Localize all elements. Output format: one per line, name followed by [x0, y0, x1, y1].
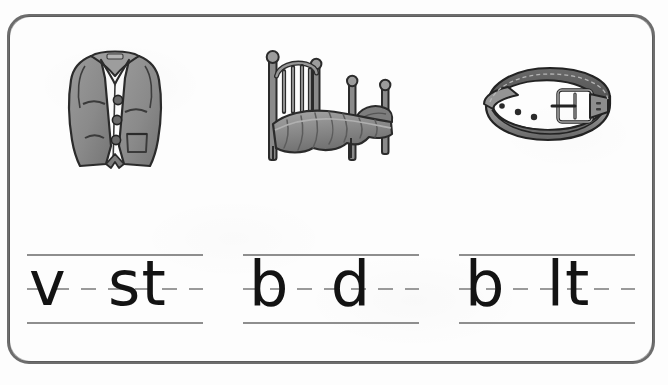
- answer-cell-1[interactable]: v st: [7, 238, 223, 338]
- answer-letters-1: v st: [27, 238, 203, 314]
- writing-lines-row: v st b d b lt: [7, 238, 655, 338]
- handwriting-lines-3: b lt: [459, 238, 635, 314]
- bed-illustration: [251, 42, 411, 170]
- answer-letters-text-1: v st: [27, 236, 205, 332]
- picture-cell-3: [439, 26, 655, 186]
- picture-row: [7, 26, 655, 186]
- answer-letters-text-2: b d: [243, 236, 425, 332]
- answer-cell-2[interactable]: b d: [223, 238, 439, 338]
- answer-letters-text-3: b lt: [459, 236, 641, 332]
- answer-cell-3[interactable]: b lt: [439, 238, 655, 338]
- picture-cell-2: [223, 26, 439, 186]
- handwriting-lines-2: b d: [243, 238, 419, 314]
- answer-letters-2: b d: [243, 238, 419, 314]
- belt-illustration: [474, 60, 620, 152]
- picture-cell-1: [7, 26, 223, 186]
- handwriting-lines-1: v st: [27, 238, 203, 314]
- vest-illustration: [61, 42, 169, 170]
- worksheet-page: v st b d b lt: [0, 0, 668, 385]
- answer-letters-3: b lt: [459, 238, 635, 314]
